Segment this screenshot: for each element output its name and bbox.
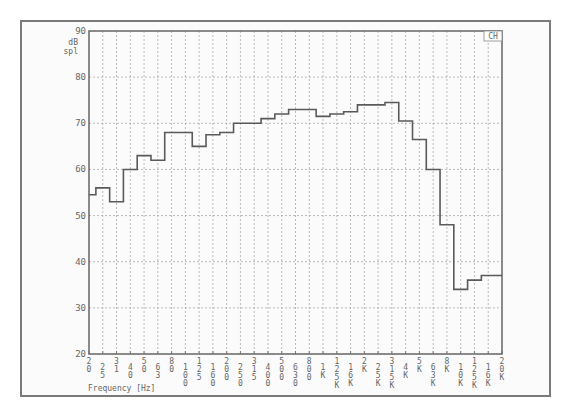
y-tick-label: 90: [75, 26, 86, 36]
x-tick-label: 2K: [362, 357, 367, 374]
x-tick-label: 50: [142, 357, 147, 374]
x-tick-label: 63K: [431, 363, 436, 388]
x-axis-title: Frequency [Hz]: [88, 384, 155, 393]
x-tick-label: 500: [279, 357, 284, 382]
x-tick-label: 800: [307, 357, 312, 382]
x-tick-label: 63: [155, 363, 160, 380]
frequency-response-chart: 2030405060708090 20253140506380100125160…: [0, 0, 566, 410]
y-tick-label: 70: [75, 118, 86, 128]
x-tick-label: 125K: [472, 357, 477, 390]
y-tick-label: 50: [75, 211, 86, 221]
x-tick-label: 10K: [458, 363, 463, 388]
y-tick-label: 30: [75, 303, 86, 313]
x-tick-label: 20K: [500, 357, 505, 382]
x-tick-label: 16K: [348, 363, 353, 388]
x-tick-label: 630: [293, 363, 298, 388]
x-tick-label: 4K: [403, 363, 408, 380]
y-unit-db: dB: [68, 38, 78, 47]
x-tick-label: 125: [197, 357, 202, 382]
x-tick-label: 315K: [389, 357, 394, 390]
y-tick-label: 20: [75, 349, 86, 359]
y-axis: 2030405060708090: [75, 26, 86, 359]
y-tick-label: 60: [75, 164, 86, 174]
y-tick-label: 80: [75, 72, 86, 82]
x-tick-label: 125K: [334, 357, 339, 390]
x-tick-label: 400: [266, 363, 271, 388]
y-unit-spl: spl: [64, 47, 79, 56]
x-tick-label: 160: [210, 363, 215, 388]
x-tick-label: 25: [100, 363, 105, 380]
x-tick-label: 1K: [321, 363, 326, 380]
x-tick-label: 25K: [376, 363, 381, 388]
x-tick-label: 16K: [486, 363, 491, 388]
x-tick-label: 80: [169, 357, 174, 374]
x-tick-label: 8K: [445, 357, 450, 374]
x-tick-label: 5K: [417, 357, 422, 374]
x-tick-label: 200: [224, 357, 229, 382]
x-tick-label: 100: [183, 363, 188, 388]
x-tick-label: 250: [238, 363, 243, 388]
y-tick-label: 40: [75, 257, 86, 267]
channel-label: CH: [488, 32, 498, 41]
x-tick-label: 40: [128, 363, 133, 380]
x-tick-label: 315: [252, 357, 257, 382]
x-tick-label: 31: [114, 357, 119, 374]
x-tick-label: 20: [87, 357, 92, 374]
